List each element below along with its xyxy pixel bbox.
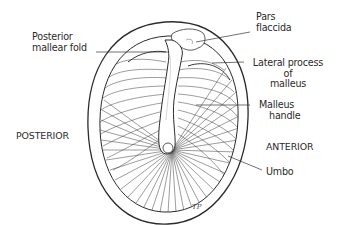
label-pars-flaccida: Pars flaccida (256, 12, 292, 33)
label-line: mallear fold (32, 43, 87, 54)
leader-umbo (228, 156, 262, 170)
label-umbo: Umbo (266, 167, 294, 178)
label-posterior: POSTERIOR (16, 131, 69, 142)
label-posterior-mallear-fold: Posterior mallear fold (32, 32, 87, 53)
label-line: Posterior (32, 32, 87, 43)
label-line: Malleus (259, 100, 301, 111)
umbo-tip (163, 143, 173, 153)
label-line: handle (259, 111, 301, 122)
leader-lateral-process (212, 62, 244, 63)
label-line: Lateral process (246, 58, 330, 69)
label-line: malleus (246, 79, 330, 90)
label-anterior: ANTERIOR (266, 142, 313, 153)
artist-signature: TP (192, 203, 201, 211)
label-line: Pars (256, 12, 292, 23)
label-lateral-process-of-malleus: Lateral process of malleus (246, 58, 330, 90)
label-line: flaccida (256, 23, 292, 34)
malleus-handle (159, 40, 183, 154)
label-malleus-handle: Malleus handle (259, 100, 301, 121)
tympanic-membrane-diagram: Posterior mallear fold Pars flaccida Lat… (0, 0, 337, 225)
